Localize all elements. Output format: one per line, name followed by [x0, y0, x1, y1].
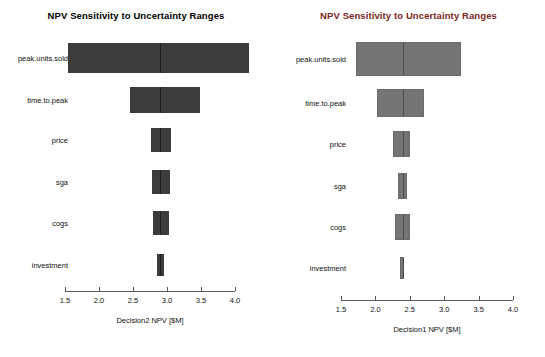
tornado-bar — [157, 254, 163, 276]
x-axis-title-left: Decision2 NPV [$M] — [65, 316, 235, 325]
tornado-bar — [398, 173, 407, 199]
x-axis-tick-label: 3.5 — [467, 305, 491, 314]
panel-decision2: NPV Sensitivity to Uncertainty Ranges pe… — [0, 0, 272, 357]
x-axis-line — [65, 291, 235, 292]
x-axis-tick-label: 4.0 — [223, 296, 247, 305]
bar-base-line — [403, 90, 404, 116]
x-axis-tick-label: 3.5 — [189, 296, 213, 305]
tornado-bar — [356, 42, 461, 76]
x-axis-tick-label: 3.0 — [432, 305, 456, 314]
x-axis-tick — [341, 296, 342, 300]
x-axis-tick-label: 2.0 — [363, 305, 387, 314]
category-label: price — [0, 136, 68, 145]
x-axis-tick — [410, 296, 411, 300]
x-axis-tick — [444, 296, 445, 300]
x-axis-line — [341, 300, 513, 301]
tornado-bar — [400, 257, 404, 279]
x-axis-tick — [133, 287, 134, 291]
tornado-bar — [130, 87, 200, 113]
x-axis-title-right: Decision1 NPV [$M] — [341, 325, 513, 334]
x-axis-tick-label: 1.5 — [329, 305, 353, 314]
x-axis-tick — [99, 287, 100, 291]
x-axis-tick — [479, 296, 480, 300]
bar-base-line — [160, 254, 161, 276]
bar-base-line — [403, 43, 404, 75]
x-axis-tick-label: 1.5 — [53, 296, 77, 305]
tornado-bar — [153, 211, 169, 235]
category-label: investment — [272, 264, 346, 273]
tornado-bar — [152, 170, 170, 194]
category-label: peak.units.sold — [0, 54, 68, 63]
category-label: time.to.peak — [0, 96, 68, 105]
category-label: time.to.peak — [272, 99, 346, 108]
x-axis-tick — [167, 287, 168, 291]
bar-base-line — [403, 215, 404, 239]
category-label: sga — [272, 182, 346, 191]
bar-base-line — [160, 43, 161, 73]
x-axis-tick-label: 2.5 — [121, 296, 145, 305]
x-axis-tick-label: 2.5 — [398, 305, 422, 314]
x-axis-tick — [513, 296, 514, 300]
bar-base-line — [160, 87, 161, 113]
bar-base-line — [403, 132, 404, 156]
tornado-bar — [393, 131, 411, 157]
panel-decision1: NPV Sensitivity to Uncertainty Ranges pe… — [272, 0, 545, 357]
x-axis-tick-label: 2.0 — [87, 296, 111, 305]
tornado-bar — [68, 43, 250, 73]
plot-area-right: peak.units.soldtime.to.peakpricesgacogsi… — [272, 0, 545, 357]
category-label: peak.units.sold — [272, 55, 346, 64]
plot-area-left: peak.units.soldtime.to.peakpricesgacogsi… — [0, 0, 272, 357]
category-label: cogs — [272, 223, 346, 232]
bar-base-line — [160, 170, 161, 194]
tornado-bar — [151, 128, 171, 152]
bar-base-line — [403, 258, 404, 278]
x-axis-tick — [235, 287, 236, 291]
x-axis-tick-label: 3.0 — [155, 296, 179, 305]
x-axis-tick — [65, 287, 66, 291]
category-label: price — [272, 140, 346, 149]
category-label: cogs — [0, 219, 68, 228]
x-axis-tick — [375, 296, 376, 300]
category-label: investment — [0, 261, 68, 270]
x-axis-tick — [201, 287, 202, 291]
sensitivity-figure: NPV Sensitivity to Uncertainty Ranges pe… — [0, 0, 545, 357]
bar-base-line — [403, 174, 404, 198]
x-axis-tick-label: 4.0 — [501, 305, 525, 314]
tornado-bar — [377, 89, 424, 117]
bar-base-line — [160, 128, 161, 152]
bar-base-line — [160, 211, 161, 235]
category-label: sga — [0, 178, 68, 187]
tornado-bar — [395, 214, 410, 240]
